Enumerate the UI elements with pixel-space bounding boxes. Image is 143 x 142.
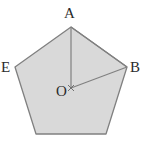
pentagon-diagram-svg <box>0 0 143 142</box>
geometry-figure: A B E O <box>0 0 143 142</box>
vertex-label-a: A <box>64 6 75 21</box>
vertex-label-e: E <box>1 60 10 75</box>
center-label-o: O <box>56 84 67 99</box>
vertex-label-b: B <box>130 60 140 75</box>
